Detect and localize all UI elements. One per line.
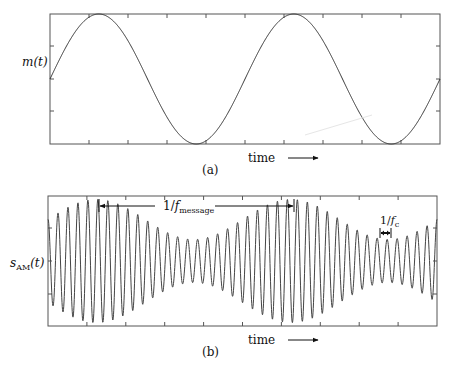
caption-b: (b) <box>202 345 219 359</box>
carrier-period-label: 1/fc <box>380 214 400 229</box>
x-axis-label-a: time <box>248 151 275 165</box>
am-signal-curve <box>48 199 437 322</box>
panel-b: sAM(t) 1/fmessage 1/fc time (b) <box>10 196 437 359</box>
figure: m(t) time (a) sAM(t) 1/fmessage 1/fc tim… <box>0 0 452 366</box>
message-signal-curve <box>50 14 440 144</box>
message-period-label: 1/fmessage <box>163 199 215 215</box>
stray-mark <box>305 115 372 135</box>
caption-a: (a) <box>202 163 219 177</box>
x-axis-label-b: time <box>248 333 275 347</box>
y-axis-label-a: m(t) <box>22 55 48 69</box>
y-axis-label-b: sAM(t) <box>10 256 45 272</box>
panel-a: m(t) time (a) <box>22 14 440 177</box>
